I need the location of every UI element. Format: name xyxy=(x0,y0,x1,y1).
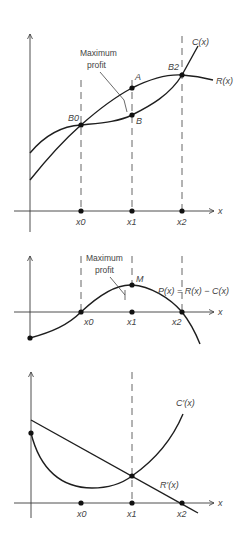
label-x1: x1 xyxy=(126,509,137,519)
tick-x0 xyxy=(78,208,83,213)
label-x1: x1 xyxy=(126,317,137,327)
tick-x1 xyxy=(129,208,134,213)
point-x0 xyxy=(78,309,83,314)
label-x2: x2 xyxy=(176,217,187,227)
annotation-max-profit-1: Maximum xyxy=(86,253,123,263)
point-a xyxy=(129,85,134,90)
bottom-chart: x C′(x) R′(x) x0 x1 x2 xyxy=(14,372,223,519)
annotation-max-profit-2: profit xyxy=(95,265,115,275)
tick-x2 xyxy=(179,500,184,505)
point-b xyxy=(129,112,134,117)
point-x2 xyxy=(179,309,184,314)
label-x2: x2 xyxy=(176,509,187,519)
label-b: B xyxy=(136,116,142,126)
label-x1: x1 xyxy=(126,217,137,227)
tick-x2 xyxy=(179,208,184,213)
profit-diagram: x B0 A B B2 C(x) R(x) Maximum profit x0 … xyxy=(0,0,252,544)
label-x0: x0 xyxy=(75,217,86,227)
x-axis-label: x xyxy=(217,206,223,216)
label-b2: B2 xyxy=(168,62,179,72)
label-cost: C(x) xyxy=(192,37,209,47)
label-revenue: R(x) xyxy=(216,76,233,86)
point-b2 xyxy=(179,72,184,77)
label-b0: B0 xyxy=(68,113,79,123)
x-axis-label: x xyxy=(217,498,223,508)
label-marginal-cost: C′(x) xyxy=(176,398,195,408)
tick-x1 xyxy=(129,309,134,314)
annotation-max-profit-1: Maximum xyxy=(80,48,117,58)
x-axis-label: x xyxy=(217,307,223,317)
annotation-pointer xyxy=(100,72,124,100)
top-chart: x B0 A B B2 C(x) R(x) Maximum profit x0 … xyxy=(14,34,233,232)
middle-chart: x M P(x) = R(x) − C(x) Maximum profit x0… xyxy=(14,253,229,344)
point-p0 xyxy=(27,335,32,340)
tick-x1 xyxy=(129,500,134,505)
revenue-curve xyxy=(30,75,213,180)
annotation-max-profit-2: profit xyxy=(87,60,107,70)
point-b0 xyxy=(78,122,83,127)
label-x0: x0 xyxy=(76,509,87,519)
label-profit-fn: P(x) = R(x) − C(x) xyxy=(158,286,229,296)
point-c0 xyxy=(28,430,33,435)
label-x2: x2 xyxy=(171,317,182,327)
annotation-bracket xyxy=(124,100,127,112)
label-x0: x0 xyxy=(83,317,94,327)
label-m: M xyxy=(136,274,144,284)
tick-x0 xyxy=(78,500,83,505)
marginal-cost-curve xyxy=(31,414,183,488)
point-m xyxy=(129,282,134,287)
point-intersection xyxy=(129,473,134,478)
label-marginal-revenue: R′(x) xyxy=(160,480,179,490)
label-a: A xyxy=(134,72,141,82)
